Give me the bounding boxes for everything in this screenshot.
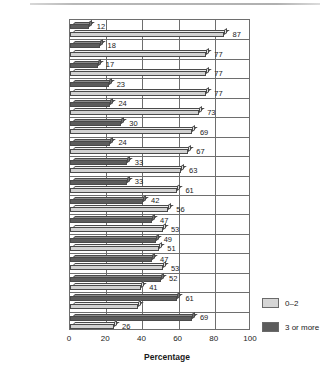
bar-dark-taiwan: [70, 275, 164, 282]
bar-front-face: [70, 43, 100, 48]
x-tick-20: 20: [101, 334, 110, 343]
bar-front-face: [70, 102, 110, 107]
bar-value-light-great-britain: 67: [196, 148, 204, 156]
bar-dark-guatemala: [70, 294, 180, 301]
bar-light-hungary: [70, 108, 202, 115]
bar-front-face: [70, 160, 127, 165]
bar-value-light-united-states: 53: [171, 265, 179, 273]
row-separator: [70, 98, 249, 99]
bar-light-canada: [70, 186, 180, 193]
legend-swatch-dark-icon: [262, 322, 279, 332]
bar-dark-thailand: [70, 119, 124, 126]
bar-front-face: [70, 207, 168, 212]
bar-value-light-iceland: 26: [122, 323, 130, 331]
bar-value-dark-colombia: 23: [117, 81, 125, 89]
bar-value-light-taiwan: 41: [149, 284, 157, 292]
bar-side-face: [89, 20, 92, 27]
bar-side-face: [100, 39, 103, 46]
bar-value-light-france: 51: [167, 245, 175, 253]
x-tick-40: 40: [137, 334, 146, 343]
bar-value-light-lithuania: 63: [189, 167, 197, 175]
bar-front-face: [70, 129, 192, 134]
row-separator: [70, 312, 249, 313]
bar-front-face: [70, 110, 199, 115]
bar-value-dark-iceland: 69: [200, 314, 208, 322]
row-separator: [70, 234, 249, 235]
bar-side-face: [192, 312, 195, 319]
row-separator: [70, 137, 249, 138]
plot-area: 1287187717772377247330692467336333614256…: [69, 19, 250, 330]
bar-light-taiwan: [70, 283, 144, 290]
bar-light-india: [70, 30, 227, 37]
bar-light-great-britain: [70, 147, 191, 154]
row-separator: [70, 292, 249, 293]
bar-front-face: [70, 199, 143, 204]
bar-front-face: [70, 149, 188, 154]
x-tick-100: 100: [243, 334, 256, 343]
bar-side-face: [121, 117, 124, 124]
bar-light-guatemala: [70, 302, 141, 309]
bar-light-spain: [70, 50, 209, 57]
x-tick-60: 60: [173, 334, 182, 343]
bar-front-face: [70, 168, 181, 173]
row-separator: [70, 273, 249, 274]
bar-side-face: [127, 175, 130, 182]
bar-light-thailand: [70, 127, 195, 134]
bar-light-united-states: [70, 263, 166, 270]
bar-light-lithuania: [70, 166, 184, 173]
bar-side-face: [141, 281, 144, 288]
bar-side-face: [177, 184, 180, 191]
bar-light-singapore: [70, 225, 166, 232]
bar-value-dark-guatemala: 61: [185, 295, 193, 303]
bar-light-mexico: [70, 205, 171, 212]
bar-side-face: [159, 242, 162, 249]
bar-value-dark-france: 49: [164, 236, 172, 244]
bar-value-light-hungary: 73: [207, 109, 215, 117]
bar-dark-canada: [70, 178, 130, 185]
bar-dark-spain: [70, 41, 103, 48]
bar-value-light-india: 87: [232, 31, 240, 39]
bar-light-colombia: [70, 89, 209, 96]
bar-dark-hungary: [70, 100, 113, 107]
bar-value-dark-mexico: 42: [151, 197, 159, 205]
bar-side-face: [110, 137, 113, 144]
bar-side-face: [114, 320, 117, 327]
bar-front-face: [70, 277, 161, 282]
bar-front-face: [70, 141, 110, 146]
bar-front-face: [70, 316, 192, 321]
bar-side-face: [152, 253, 155, 260]
bar-dark-france: [70, 236, 159, 243]
x-tick-80: 80: [209, 334, 218, 343]
legend-item-0-2: 0–2: [262, 297, 334, 312]
bar-value-light-canada: 61: [185, 187, 193, 195]
bar-dark-india: [70, 22, 92, 29]
bar-front-face: [70, 257, 152, 262]
bar-dark-iceland: [70, 314, 195, 321]
row-separator: [70, 156, 249, 157]
row-separator: [70, 59, 249, 60]
gridline-80: [215, 20, 216, 329]
bar-value-light-singapore: 53: [171, 226, 179, 234]
bar-side-face: [188, 145, 191, 152]
bar-front-face: [70, 265, 163, 270]
bar-dark-singapore: [70, 216, 155, 223]
top-divider-rule: [30, 3, 320, 5]
bar-dark-great-britain: [70, 139, 113, 146]
bar-side-face: [138, 300, 141, 307]
bar-chart: 1287187717772377247330692467336333614256…: [0, 0, 334, 372]
bar-dark-colombia: [70, 80, 112, 87]
legend: 0–2 3 or more: [262, 297, 334, 345]
bar-dark-lithuania: [70, 158, 130, 165]
bar-side-face: [168, 203, 171, 210]
bar-side-face: [152, 214, 155, 221]
bar-front-face: [70, 285, 141, 290]
bar-side-face: [127, 156, 130, 163]
bar-front-face: [70, 246, 159, 251]
bar-front-face: [70, 324, 114, 329]
bar-value-dark-lithuania: 33: [135, 159, 143, 167]
bar-value-dark-taiwan: 52: [169, 275, 177, 283]
bar-front-face: [70, 24, 89, 29]
bar-value-dark-spain: 18: [108, 42, 116, 50]
bar-front-face: [70, 63, 98, 68]
bar-side-face: [206, 86, 209, 93]
